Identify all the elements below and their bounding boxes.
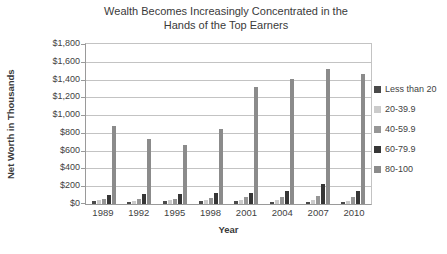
- chart-title-line1: Wealth Becomes Increasingly Concentrated…: [30, 4, 422, 18]
- bar-2010-60-79.9: [356, 191, 360, 204]
- legend-swatch-icon: [374, 106, 381, 113]
- bar-group-2001: [234, 44, 258, 204]
- legend-item: 40-59.9: [374, 124, 437, 134]
- bar-1989-40-59.9: [102, 199, 106, 204]
- legend-label: 40-59.9: [385, 124, 416, 134]
- y-axis-tick: [81, 62, 85, 63]
- x-axis-title: Year: [85, 224, 372, 235]
- legend-item: 60-79.9: [374, 144, 437, 154]
- legend-item: 20-39.9: [374, 104, 437, 114]
- bar-2010-20-39.9: [346, 201, 350, 204]
- x-axis-tick-label: 2001: [229, 207, 265, 218]
- bar-2001-80-100: [254, 87, 258, 204]
- y-axis-tick: [81, 80, 85, 81]
- legend-item: Less than 20: [374, 84, 437, 94]
- bar-1992-60-79.9: [142, 194, 146, 204]
- y-axis-tick-label: $1,600: [28, 56, 80, 67]
- x-axis-tick-label: 2010: [336, 207, 372, 218]
- bar-1992-20-39.9: [132, 201, 136, 204]
- y-axis-tick-label: $1,000: [28, 109, 80, 120]
- bar-group-1995: [163, 44, 187, 204]
- chart-canvas: Wealth Becomes Increasingly Concentrated…: [0, 0, 447, 254]
- bar-1989-80-100: [112, 126, 116, 204]
- bar-2004-less-than-20: [270, 202, 274, 204]
- bar-2007-40-59.9: [316, 196, 320, 204]
- x-axis-tick-label: 1989: [85, 207, 121, 218]
- bar-group-1998: [199, 44, 223, 204]
- y-axis-tick: [81, 186, 85, 187]
- legend-label: Less than 20: [385, 84, 437, 94]
- bar-1998-60-79.9: [214, 193, 218, 204]
- y-axis-tick-label: $800: [28, 127, 80, 138]
- bar-1995-40-59.9: [173, 199, 177, 204]
- bar-2010-40-59.9: [351, 197, 355, 204]
- bar-1992-40-59.9: [137, 199, 141, 204]
- bar-group-1992: [127, 44, 151, 204]
- bar-2007-20-39.9: [311, 200, 315, 204]
- legend-swatch-icon: [374, 146, 381, 153]
- y-axis-tick: [81, 115, 85, 116]
- bar-1989-20-39.9: [97, 200, 101, 204]
- legend-swatch-icon: [374, 126, 381, 133]
- legend-swatch-icon: [374, 86, 381, 93]
- y-axis-tick: [81, 168, 85, 169]
- y-axis-tick-label: $1,800: [28, 38, 80, 49]
- legend-item: 80-100: [374, 164, 437, 174]
- x-axis-tick-label: 1992: [121, 207, 157, 218]
- legend-label: 60-79.9: [385, 144, 416, 154]
- bar-group-2007: [306, 44, 330, 204]
- y-axis-tick: [81, 97, 85, 98]
- y-axis-tick-label: $0: [28, 198, 80, 209]
- bar-1989-less-than-20: [92, 201, 96, 204]
- y-axis-tick: [81, 133, 85, 134]
- bar-2001-60-79.9: [249, 193, 253, 204]
- y-axis-title: Net Worth in Thousands: [5, 43, 19, 205]
- x-axis-tick-label: 1995: [157, 207, 193, 218]
- y-axis-labels: $0$200$400$600$800$1,000$1,200$1,400$1,6…: [28, 43, 80, 203]
- legend-swatch-icon: [374, 166, 381, 173]
- bar-group-1989: [92, 44, 116, 204]
- chart-title-line2: Hands of the Top Earners: [30, 18, 422, 32]
- bar-1995-80-100: [183, 145, 187, 204]
- chart-title: Wealth Becomes Increasingly Concentrated…: [30, 4, 422, 32]
- bar-2010-80-100: [361, 74, 365, 204]
- x-axis-tick-label: 2004: [264, 207, 300, 218]
- bar-2004-60-79.9: [285, 191, 289, 204]
- legend-label: 80-100: [385, 164, 413, 174]
- bar-2010-less-than-20: [341, 202, 345, 204]
- x-axis-tick-label: 1998: [193, 207, 229, 218]
- legend-label: 20-39.9: [385, 104, 416, 114]
- y-axis-tick: [81, 44, 85, 45]
- bar-2001-less-than-20: [234, 201, 238, 204]
- bar-2004-20-39.9: [275, 200, 279, 204]
- bar-group-2004: [270, 44, 294, 204]
- bar-1992-less-than-20: [127, 202, 131, 204]
- y-axis-tick-label: $400: [28, 162, 80, 173]
- bar-2001-20-39.9: [239, 200, 243, 204]
- bar-1992-80-100: [147, 139, 151, 204]
- bar-1995-20-39.9: [168, 200, 172, 204]
- x-axis-tick-label: 2007: [300, 207, 336, 218]
- bar-2007-80-100: [326, 69, 330, 204]
- y-axis-tick: [81, 151, 85, 152]
- bar-group-2010: [341, 44, 365, 204]
- bar-1998-20-39.9: [204, 200, 208, 204]
- y-axis-tick-label: $200: [28, 180, 80, 191]
- bar-2001-40-59.9: [244, 197, 248, 204]
- bar-2004-40-59.9: [280, 197, 284, 204]
- bars-container: [86, 44, 371, 204]
- y-axis-tick-label: $1,200: [28, 91, 80, 102]
- bar-2007-less-than-20: [306, 202, 310, 204]
- y-axis-tick-label: $600: [28, 145, 80, 156]
- y-axis-tick-label: $1,400: [28, 74, 80, 85]
- bar-2007-60-79.9: [321, 184, 325, 204]
- legend: Less than 2020-39.940-59.960-79.980-100: [374, 84, 437, 174]
- bar-1989-60-79.9: [107, 195, 111, 204]
- bar-1995-less-than-20: [163, 201, 167, 204]
- plot-area: [85, 43, 372, 205]
- y-axis-tick: [81, 203, 85, 204]
- x-axis-labels: 19891992199519982001200420072010: [85, 207, 372, 218]
- bar-1998-less-than-20: [199, 201, 203, 204]
- bar-1998-40-59.9: [209, 198, 213, 204]
- bar-1998-80-100: [219, 129, 223, 204]
